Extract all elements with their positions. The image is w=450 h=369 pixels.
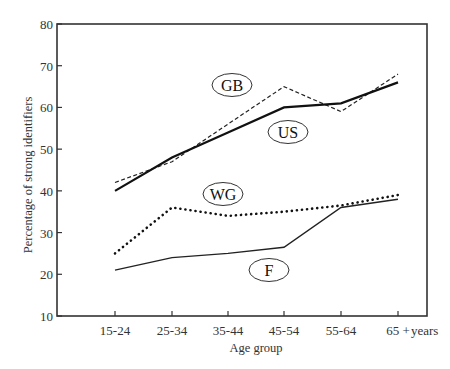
x-tick-label: 55-64 (326, 323, 357, 338)
svg-text:WG: WG (210, 186, 237, 203)
y-axis-title: Percentage of strong identifiers (21, 97, 35, 254)
x-tick-label: 35-44 (213, 323, 244, 338)
series-lines (115, 74, 398, 270)
x-tick-label: 45-54 (269, 323, 300, 338)
label-us: US (268, 121, 308, 144)
x-axis-title: Age group (229, 341, 282, 355)
x-tick-label: 15-24 (100, 323, 131, 338)
label-wg: WG (203, 183, 243, 206)
svg-text:F: F (265, 262, 274, 279)
label-gb: GB (212, 74, 252, 97)
y-tick-label: 60 (40, 100, 53, 115)
y-tick-label: 10 (40, 309, 53, 324)
svg-text:GB: GB (221, 77, 243, 94)
y-tick-label: 40 (40, 184, 53, 199)
x-tick-label: 65 + (386, 323, 410, 338)
y-tick-label: 80 (40, 17, 53, 32)
y-axis: 1020304050607080 (40, 17, 62, 324)
plot-frame (57, 24, 427, 316)
y-tick-label: 50 (40, 142, 53, 157)
series-line-f (115, 199, 398, 270)
y-tick-label: 30 (40, 226, 53, 241)
x-axis: 15-2425-3435-4445-5455-6465 +years (100, 311, 439, 338)
x-unit-label: years (411, 323, 438, 338)
y-tick-label: 20 (40, 267, 53, 282)
x-tick-label: 25-34 (157, 323, 188, 338)
line-chart: 1020304050607080 15-2425-3435-4445-5455-… (0, 0, 450, 369)
y-tick-label: 70 (40, 59, 53, 74)
label-f: F (249, 259, 289, 282)
series-line-wg (115, 195, 398, 253)
svg-text:US: US (278, 124, 298, 141)
series-line-us (115, 82, 398, 190)
